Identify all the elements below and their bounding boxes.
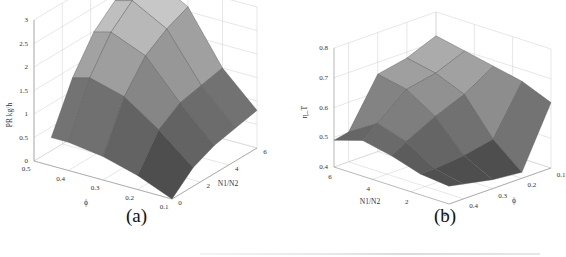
caption-a: (a) <box>126 205 147 227</box>
svg-text:6: 6 <box>328 173 332 181</box>
svg-text:0.1: 0.1 <box>557 171 566 179</box>
svg-text:0.3: 0.3 <box>91 184 100 192</box>
svg-text:0.2: 0.2 <box>527 181 536 189</box>
svg-text:0: 0 <box>178 199 182 207</box>
svg-text:0.3: 0.3 <box>498 192 507 200</box>
panel-b-efficiency-surface: 0.40.50.60.70.802460.10.20.30.4η_TN1/N2ϕ… <box>283 0 566 257</box>
svg-text:2: 2 <box>207 182 211 190</box>
svg-text:3: 3 <box>25 16 29 24</box>
svg-text:0.1: 0.1 <box>160 203 169 211</box>
svg-text:0.5: 0.5 <box>19 134 28 142</box>
surface-mesh <box>51 0 257 199</box>
z-axis-label: η_T <box>300 105 309 118</box>
surface-mesh <box>334 36 551 186</box>
surface-plot-b: 0.40.50.60.70.802460.10.20.30.4η_TN1/N2ϕ <box>283 0 566 257</box>
svg-text:0.4: 0.4 <box>319 163 328 171</box>
svg-text:2.5: 2.5 <box>19 40 28 48</box>
svg-text:0.6: 0.6 <box>319 104 328 112</box>
svg-text:2: 2 <box>25 63 29 71</box>
x-axis-label: N1/N2 <box>360 197 381 206</box>
svg-text:0.4: 0.4 <box>469 202 478 210</box>
svg-text:4: 4 <box>235 165 239 173</box>
svg-text:1.5: 1.5 <box>19 87 28 95</box>
svg-text:0.7: 0.7 <box>319 74 328 82</box>
panel-a-pr-surface: 00.511.522.5302460.10.20.30.40.5PR kg/hN… <box>0 0 283 257</box>
svg-text:0.4: 0.4 <box>56 175 65 183</box>
svg-text:2: 2 <box>405 198 409 206</box>
svg-text:0.5: 0.5 <box>319 133 328 141</box>
y-axis-label: ϕ <box>84 198 88 207</box>
cropped-caption-text <box>0 250 566 257</box>
z-axis-label: PR kg/h <box>5 103 14 128</box>
y-axis-label: ϕ <box>512 196 516 205</box>
caption-b: (b) <box>434 205 456 227</box>
svg-text:0.2: 0.2 <box>125 194 134 202</box>
x-axis-label: N1/N2 <box>218 179 239 188</box>
svg-text:0: 0 <box>25 157 29 165</box>
svg-text:0.8: 0.8 <box>319 44 328 52</box>
svg-text:0.5: 0.5 <box>22 165 31 173</box>
svg-text:4: 4 <box>367 185 371 193</box>
svg-text:1: 1 <box>25 110 29 118</box>
svg-text:6: 6 <box>263 148 267 156</box>
